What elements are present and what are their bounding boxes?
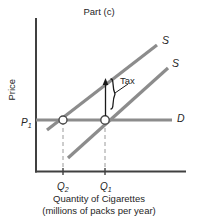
equilibrium-point-q2 <box>59 116 67 124</box>
economics-supply-demand-chart <box>0 0 198 217</box>
q1-symbol: Q <box>100 181 108 192</box>
x-axis-label-line2: (millions of packs per year) <box>0 206 198 216</box>
supply-curve-before-tax <box>68 68 168 158</box>
price-subscript: 1 <box>28 122 32 129</box>
price-axis-value: P1 <box>21 113 32 129</box>
y-axis-label: Price <box>7 65 17 115</box>
supply-curve-before-tax-label: S <box>172 58 179 69</box>
price-symbol: P <box>21 117 28 128</box>
demand-curve-label: D <box>177 113 185 124</box>
x-axis-label-line1: Quantity of Cigarettes <box>0 194 198 204</box>
quantity-q2-value: Q2 <box>57 177 69 193</box>
q2-subscript: 2 <box>65 186 69 193</box>
equilibrium-point-q1 <box>101 116 109 124</box>
tax-arrow <box>103 78 109 116</box>
tax-brace <box>111 79 115 109</box>
q1-subscript: 1 <box>108 186 112 193</box>
supply-curve-after-tax-label: S <box>162 35 169 46</box>
figure-container: Part (c) Price Quantity of Cigarettes (m… <box>0 0 198 217</box>
q2-symbol: Q <box>57 181 65 192</box>
tax-annotation-label: Tax <box>120 76 135 86</box>
quantity-q1-value: Q1 <box>100 177 112 193</box>
chart-title: Part (c) <box>0 7 198 17</box>
